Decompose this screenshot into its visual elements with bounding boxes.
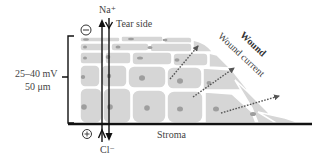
tear-side-label: Tear side: [116, 19, 152, 29]
thickness-label: 50 μm: [25, 82, 51, 92]
plus-circle-icon: [83, 130, 92, 139]
chloride-label: Cl⁻: [100, 145, 115, 155]
thickness-bracket: [62, 36, 74, 123]
minus-circle-icon: [81, 25, 91, 35]
voltage-label: 25–40 mV: [15, 69, 58, 79]
sodium-label: Na⁺: [99, 5, 116, 15]
stroma-label: Stroma: [157, 130, 186, 140]
